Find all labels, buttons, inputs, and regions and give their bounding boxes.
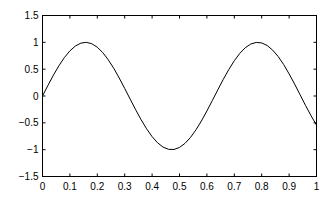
y-tick-label: −1: [27, 144, 39, 155]
y-tick-label: 1.5: [25, 10, 39, 21]
y-tick-label: 0: [33, 91, 39, 102]
x-tick-label: 0.5: [173, 181, 187, 192]
y-tick-label: −0.5: [19, 117, 39, 128]
x-tick-label: 0.6: [200, 181, 214, 192]
x-tick-label: 0.1: [63, 181, 77, 192]
x-tick-label: 0: [40, 181, 46, 192]
x-tick-label: 0.7: [227, 181, 241, 192]
x-tick-label: 0.9: [282, 181, 296, 192]
line-chart: 00.10.20.30.40.50.60.70.80.91 −1.5−1−0.5…: [0, 0, 336, 198]
x-tick-label: 0.8: [255, 181, 269, 192]
y-tick-label: 0.5: [25, 64, 39, 75]
chart-background: [0, 0, 336, 198]
x-tick-label: 1: [314, 181, 320, 192]
y-tick-label: −1.5: [19, 171, 39, 182]
x-tick-label: 0.3: [118, 181, 132, 192]
y-tick-label: 1: [33, 37, 39, 48]
x-tick-label: 0.2: [90, 181, 104, 192]
x-tick-label: 0.4: [145, 181, 159, 192]
